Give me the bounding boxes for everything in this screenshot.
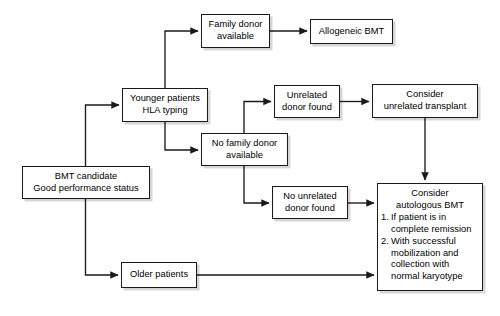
node-text-line: Good performance status xyxy=(33,183,138,193)
node-text-line: unrelated transplant xyxy=(384,101,467,111)
node-text-line: normal karyotype xyxy=(381,271,479,283)
node-text-line: available xyxy=(217,31,254,41)
node-no-unrelated-donor-found-text: No unrelated donor found xyxy=(273,191,347,214)
node-text-line: collection with xyxy=(381,259,479,271)
node-older-patients[interactable]: Older patients xyxy=(121,262,197,288)
autologous-list-item-2: 2. With successful xyxy=(381,236,479,248)
node-text-line: HLA typing xyxy=(142,105,187,115)
edge-no-family-to-no-unrelated xyxy=(244,166,269,203)
node-bmt-candidate-text: BMT candidate Good performance status xyxy=(23,171,149,194)
node-unrelated-donor-found[interactable]: Unrelated donor found xyxy=(274,85,340,118)
node-consider-unrelated-transplant-text: Consider unrelated transplant xyxy=(373,89,477,112)
flowchart-canvas: Family donor available Allogeneic BMT Yo… xyxy=(0,0,500,316)
node-allogeneic-bmt-text: Allogeneic BMT xyxy=(311,26,392,38)
node-text-line: Younger patients xyxy=(130,93,200,103)
edge-younger-to-no-family-donor xyxy=(165,122,198,150)
node-text-line: No family donor xyxy=(212,138,277,148)
node-no-family-donor-available-text: No family donor available xyxy=(202,138,287,161)
node-text-line: complete remission xyxy=(381,224,479,236)
node-younger-patients[interactable]: Younger patients HLA typing xyxy=(122,88,208,122)
node-text-line: No unrelated xyxy=(283,191,336,201)
autologous-list-item-1: 1. If patient is in xyxy=(381,212,479,224)
edge-bmt-to-older xyxy=(86,199,119,275)
node-older-patients-text: Older patients xyxy=(122,269,196,281)
node-text-line: mobilization and xyxy=(381,248,479,260)
node-consider-unrelated-transplant[interactable]: Consider unrelated transplant xyxy=(372,84,478,118)
edge-no-family-to-unrelated-found xyxy=(244,102,271,134)
node-text-line: Family donor xyxy=(209,19,263,29)
node-text-line: BMT candidate xyxy=(55,171,118,181)
node-text-line: Consider xyxy=(381,188,479,200)
list-number: 2. xyxy=(381,236,391,248)
node-text-line: With successful xyxy=(391,236,479,248)
node-family-donor-available[interactable]: Family donor available xyxy=(201,14,270,48)
node-text-line: Consider xyxy=(406,89,443,99)
node-allogeneic-bmt[interactable]: Allogeneic BMT xyxy=(310,19,393,44)
node-text-line: If patient is in xyxy=(391,212,479,224)
node-text-line: autologous BMT xyxy=(381,200,479,212)
node-no-family-donor-available[interactable]: No family donor available xyxy=(201,133,288,166)
node-consider-autologous-bmt[interactable]: Consider autologous BMT 1. If patient is… xyxy=(377,183,483,291)
node-no-unrelated-donor-found[interactable]: No unrelated donor found xyxy=(272,186,348,219)
node-text-line: Allogeneic BMT xyxy=(319,26,384,36)
node-younger-patients-text: Younger patients HLA typing xyxy=(123,93,207,116)
node-text-line: Older patients xyxy=(130,269,188,279)
node-unrelated-donor-found-text: Unrelated donor found xyxy=(275,90,339,113)
node-text-line: Unrelated xyxy=(287,90,328,100)
node-consider-autologous-bmt-text: Consider autologous BMT 1. If patient is… xyxy=(378,184,482,283)
edge-younger-to-family-donor xyxy=(165,31,198,88)
node-text-line: donor found xyxy=(285,203,335,213)
edge-bmt-to-younger xyxy=(86,105,120,166)
node-bmt-candidate[interactable]: BMT candidate Good performance status xyxy=(22,166,150,199)
node-text-line: donor found xyxy=(282,102,332,112)
node-text-line: available xyxy=(226,150,263,160)
node-family-donor-available-text: Family donor available xyxy=(202,19,269,42)
list-number: 1. xyxy=(381,212,391,224)
